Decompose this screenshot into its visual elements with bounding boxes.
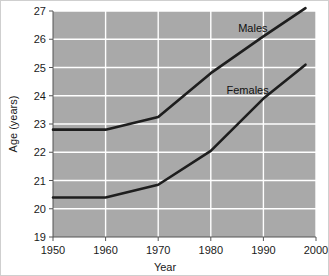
series-annotation-females: Females (227, 84, 270, 96)
x-tick-label-1970: 1970 (146, 244, 170, 256)
x-tick-label-1960: 1960 (93, 244, 117, 256)
line-chart: 192021222324252627 195019601970198019902… (1, 1, 329, 276)
y-tick-label-20: 20 (34, 203, 46, 215)
y-tick-label-25: 25 (34, 62, 46, 74)
series-annotation-males: Males (238, 22, 268, 34)
y-tick-label-19: 19 (34, 231, 46, 243)
chart-figure: 192021222324252627 195019601970198019902… (0, 0, 329, 276)
x-tick-label-2000: 2000 (304, 244, 328, 256)
y-tick-label-24: 24 (34, 90, 46, 102)
x-tick-label-1950: 1950 (41, 244, 65, 256)
y-tick-label-22: 22 (34, 146, 46, 158)
y-tick-label-23: 23 (34, 118, 46, 130)
y-axis-ticks (49, 11, 53, 237)
x-axis-ticks (53, 237, 316, 241)
y-tick-label-21: 21 (34, 175, 46, 187)
y-tick-label-26: 26 (34, 33, 46, 45)
y-axis-tick-labels: 192021222324252627 (34, 5, 46, 243)
x-tick-label-1980: 1980 (199, 244, 223, 256)
x-axis-title: Year (154, 261, 177, 273)
x-tick-label-1990: 1990 (251, 244, 275, 256)
y-axis-title: Age (years) (7, 96, 19, 153)
x-axis-tick-labels: 195019601970198019902000 (41, 244, 328, 256)
y-tick-label-27: 27 (34, 5, 46, 17)
